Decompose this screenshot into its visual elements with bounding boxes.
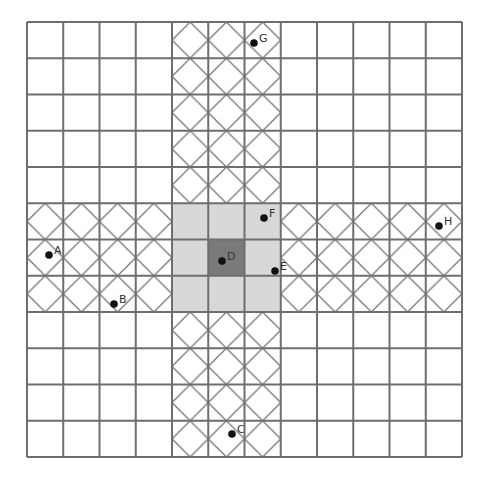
grid-lines [27, 22, 462, 457]
point-dot [271, 267, 279, 275]
point-label: F [269, 207, 275, 220]
point-label: A [54, 244, 62, 257]
point-label: G [259, 32, 268, 45]
point-label: B [119, 293, 127, 306]
point-label: C [237, 423, 245, 436]
point-dot [45, 251, 53, 259]
point-dot [250, 39, 258, 47]
point-dot [228, 430, 236, 438]
point-dot [260, 214, 268, 222]
point-label: E [280, 260, 287, 273]
grid-diagram: ABCDEFGH [0, 0, 486, 483]
point-dot [110, 300, 118, 308]
point-label: D [227, 250, 235, 263]
point-label: H [444, 215, 452, 228]
point-dot [218, 257, 226, 265]
point-dot [435, 222, 443, 230]
